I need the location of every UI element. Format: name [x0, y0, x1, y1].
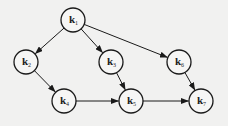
node-k6: k6 [167, 50, 191, 74]
node-subscript: 3 [113, 62, 116, 68]
dag-diagram: k1k2k3k6k4k5k7 [0, 0, 228, 126]
node-subscript: 7 [203, 101, 206, 107]
edge-k1-k6 [84, 24, 167, 57]
node-subscript: 5 [133, 101, 136, 107]
edge-k1-k3 [81, 29, 103, 53]
edge-k3-k5 [117, 73, 126, 90]
node-k7: k7 [189, 89, 213, 113]
nodes-layer: k1k2k3k6k4k5k7 [14, 8, 213, 113]
node-subscript: 6 [181, 62, 184, 68]
node-subscript: 2 [28, 62, 31, 68]
node-k3: k3 [99, 50, 123, 74]
edge-k2-k4 [34, 71, 55, 92]
node-k5: k5 [119, 89, 143, 113]
node-k1: k1 [61, 8, 85, 32]
edge-k1-k2 [35, 28, 64, 54]
edge-k6-k7 [185, 73, 195, 91]
node-k4: k4 [52, 89, 76, 113]
node-subscript: 1 [75, 20, 78, 26]
node-subscript: 4 [66, 101, 69, 107]
node-k2: k2 [14, 50, 38, 74]
